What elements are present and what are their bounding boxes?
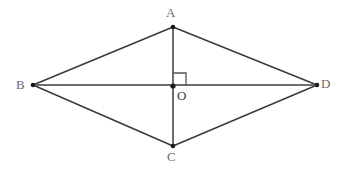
side-CD [173, 85, 317, 146]
vertex-point-O [170, 83, 175, 88]
center-label-O: O [177, 89, 186, 102]
side-AB [33, 27, 173, 85]
side-BC [33, 85, 173, 146]
vertex-label-B: B [16, 78, 25, 91]
vertex-point-D [315, 83, 320, 88]
side-AD [173, 27, 317, 85]
vertex-label-A: A [166, 6, 175, 19]
vertex-label-C: C [167, 150, 176, 163]
vertex-point-B [31, 83, 36, 88]
vertex-point-C [171, 144, 176, 149]
vertex-point-A [171, 25, 176, 30]
vertex-label-D: D [321, 77, 330, 90]
geometry-figure: A B C D O [0, 0, 347, 178]
